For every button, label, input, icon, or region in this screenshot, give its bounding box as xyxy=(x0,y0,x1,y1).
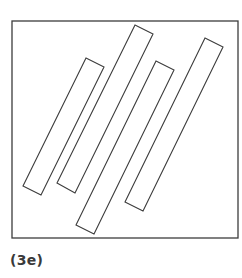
slanted-bar-1 xyxy=(23,58,104,195)
slanted-bar-4 xyxy=(125,38,223,211)
square-frame xyxy=(12,21,238,238)
figure-caption: (3e) xyxy=(10,252,43,268)
slanted-bar-3 xyxy=(76,61,174,234)
slanted-bar-2 xyxy=(57,25,153,193)
diagram-figure xyxy=(0,0,242,278)
